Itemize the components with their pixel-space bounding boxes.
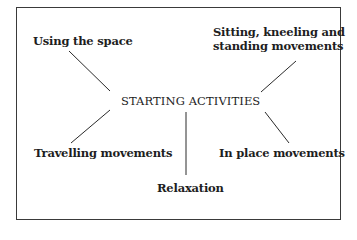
- node-in-place-movements: In place movements: [219, 147, 345, 160]
- node-travelling-movements: Travelling movements: [34, 147, 172, 160]
- center-node-starting-activities: STARTING ACTIVITIES: [121, 95, 260, 108]
- node-relaxation: Relaxation: [157, 182, 224, 195]
- node-sitting-line1: Sitting, kneeling and: [213, 26, 345, 39]
- connector-travelling: [71, 110, 110, 143]
- node-sitting-line2: standing movements: [213, 40, 343, 53]
- connector-using-space: [69, 51, 110, 91]
- connector-in-place: [265, 112, 289, 143]
- node-using-the-space: Using the space: [33, 35, 133, 48]
- connector-sitting: [261, 61, 296, 92]
